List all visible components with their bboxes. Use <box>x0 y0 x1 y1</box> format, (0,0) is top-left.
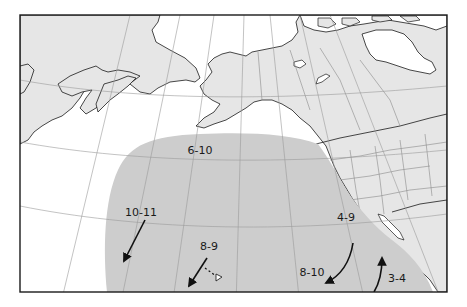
label-california: 4-9 <box>337 211 355 224</box>
label-hawaii: 8-9 <box>200 240 218 253</box>
map: 6-10 10-11 8-9 4-9 8-10 3-4 <box>0 0 467 307</box>
label-west: 10-11 <box>125 206 157 219</box>
label-southcoast: 8-10 <box>300 266 325 279</box>
label-north: 6-10 <box>188 144 213 157</box>
label-mexico: 3-4 <box>388 272 406 285</box>
